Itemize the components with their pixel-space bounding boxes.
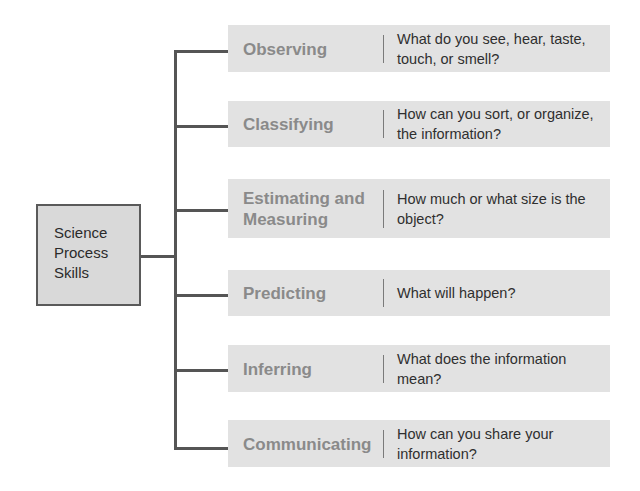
skill-question: How much or what size is the object? <box>397 189 607 229</box>
divider <box>383 355 384 383</box>
skill-question: How can you sort, or organize, the infor… <box>397 104 607 144</box>
skill-name: Predicting <box>243 283 373 304</box>
skill-row-predicting: Predicting What will happen? <box>228 270 610 316</box>
skill-name: Classifying <box>243 114 373 135</box>
trunk-line <box>174 50 177 450</box>
branch-connector-1 <box>174 50 228 53</box>
divider <box>383 279 384 307</box>
root-label-line-3: Skills <box>54 263 139 283</box>
skill-row-communicating: Communicating How can you share your inf… <box>228 420 610 467</box>
divider <box>383 190 384 228</box>
root-label-line-2: Process <box>54 243 139 263</box>
skill-row-inferring: Inferring What does the information mean… <box>228 345 610 392</box>
branch-connector-6 <box>174 447 228 450</box>
divider <box>383 110 384 138</box>
skill-question: What will happen? <box>397 283 607 303</box>
divider <box>383 35 384 63</box>
root-connector <box>141 255 176 258</box>
branch-connector-2 <box>174 125 228 128</box>
branch-connector-3 <box>174 209 228 212</box>
skill-row-classifying: Classifying How can you sort, or organiz… <box>228 101 610 147</box>
branch-connector-4 <box>174 294 228 297</box>
skill-row-estimating-measuring: Estimating and Measuring How much or wha… <box>228 179 610 238</box>
skill-name: Observing <box>243 38 373 59</box>
root-node: Science Process Skills <box>36 204 141 306</box>
skill-name: Estimating and Measuring <box>243 188 373 230</box>
skill-name: Communicating <box>243 433 373 454</box>
skill-question: What do you see, hear, taste, touch, or … <box>397 29 607 69</box>
skill-question: What does the information mean? <box>397 349 607 389</box>
branch-connector-5 <box>174 369 228 372</box>
skill-question: How can you share your information? <box>397 424 607 464</box>
skill-row-observing: Observing What do you see, hear, taste, … <box>228 25 610 72</box>
root-label-line-1: Science <box>54 223 139 243</box>
divider <box>383 430 384 458</box>
skill-name: Inferring <box>243 358 373 379</box>
